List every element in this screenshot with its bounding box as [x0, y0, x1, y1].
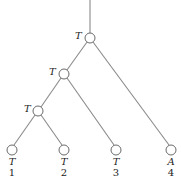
leaf-node-2	[59, 145, 69, 155]
leaf-2-number: 2	[61, 167, 67, 178]
internal-node-2	[59, 69, 69, 79]
phylogenetic-tree: T T T T 1 T 2 T 3 A 4	[0, 0, 181, 179]
internal-node-1-label: T	[75, 30, 83, 41]
leaf-1-label: T	[9, 156, 17, 167]
internal-node-3	[33, 106, 43, 116]
leaf-3-label: T	[113, 156, 121, 167]
internal-node-3-label: T	[24, 103, 32, 114]
leaf-node-3	[111, 145, 121, 155]
leaf-4-number: 4	[168, 167, 174, 178]
leaf-node-1	[7, 145, 17, 155]
leaf-node-4	[166, 145, 176, 155]
edge-n3-leaf1	[14, 115, 35, 145]
edge-n1-n2	[67, 42, 87, 70]
leaf-2-label: T	[61, 156, 69, 167]
edge-n1-leaf4	[93, 42, 169, 145]
leaf-3-number: 3	[113, 167, 119, 178]
internal-node-1	[85, 33, 95, 43]
internal-node-2-label: T	[49, 66, 57, 77]
edge-n3-leaf2	[41, 115, 62, 145]
edge-n2-leaf3	[67, 78, 114, 145]
edge-n2-n3	[41, 78, 61, 107]
leaf-1-number: 1	[9, 167, 15, 178]
leaf-4-label: A	[166, 156, 174, 167]
